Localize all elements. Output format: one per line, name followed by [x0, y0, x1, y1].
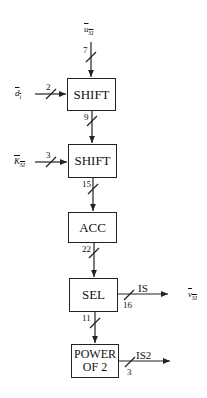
shift-block-1-label: SHIFT [73, 88, 109, 102]
power-of-2-block: POWER OF 2 [71, 344, 119, 378]
input-d-i-label: di [15, 88, 21, 100]
bus-width-is: 16 [123, 300, 132, 310]
sel-block-label: SEL [82, 288, 105, 302]
bus-width-is2: 3 [127, 367, 132, 377]
output-is-label: IS [138, 282, 148, 294]
bus-width-sel-out: 11 [82, 313, 91, 323]
bus-width-d: 2 [46, 82, 51, 92]
output-is2-label: IS2 [136, 349, 151, 361]
shift-block-2-label: SHIFT [74, 154, 110, 168]
bus-width-shift1-out: 9 [84, 112, 89, 122]
bus-width-shift2-out: 15 [82, 179, 91, 189]
bus-width-acc-out: 22 [82, 244, 91, 254]
input-u-si-label: uSI [84, 24, 94, 36]
bus-width-u: 7 [83, 45, 88, 55]
acc-block: ACC [68, 212, 117, 243]
bus-width-k: 3 [46, 150, 51, 160]
shift-block-2: SHIFT [68, 144, 117, 178]
shift-block-1: SHIFT [67, 78, 116, 111]
diagram-connectors [0, 0, 207, 398]
sel-block: SEL [69, 278, 118, 312]
input-k-si-label: KSI [14, 156, 25, 168]
power-of-2-label-line2: OF 2 [83, 361, 107, 374]
acc-block-label: ACC [79, 221, 106, 235]
output-v-si-label: vSI [188, 289, 197, 301]
